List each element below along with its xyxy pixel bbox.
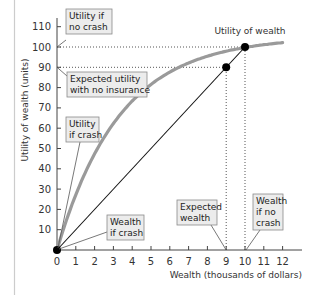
y-tick-label: 10 [38,224,51,235]
utility-if-crash-box: Utilityif crash [66,117,102,142]
x-tick-label: 3 [110,256,116,267]
annotation-text: crash [256,218,281,228]
y-axis-title: Utility of wealth (units) [20,58,30,161]
x-tick-label: 0 [54,256,60,267]
y-tick-label: 60 [38,123,51,134]
x-tick-label: 12 [276,256,289,267]
y-tick-label: 40 [38,163,51,174]
x-tick-label: 8 [204,256,210,267]
y-tick-label: 70 [38,102,51,113]
annotation-text: with no insurance [70,85,150,95]
y-tick-label: 20 [38,204,51,215]
utility-of-wealth-chart: 0123456789101112102030405060708090100110… [0,0,315,295]
annotation-text: if crash [110,228,143,238]
x-tick-label: 11 [257,256,270,267]
annotation-text: Wealth [110,217,141,227]
annotation-text: Utility [69,119,96,129]
annotation-text: no crash [69,22,108,32]
x-tick-label: 9 [223,256,229,267]
leader-line [246,230,260,250]
annotation-text: Wealth [256,196,287,206]
curve-label: Utility of wealth [214,26,285,36]
y-tick-label: 80 [38,82,51,93]
leader-line [57,67,67,76]
annotation-text: Utility if [69,11,105,21]
wealth-if-crash-box: Wealthif crash [107,215,144,240]
utility-if-no-crash-box: Utility ifno crash [66,9,112,34]
leader-line [57,40,66,47]
x-tick-label: 4 [129,256,135,267]
annotation-text: Expected utility [70,74,141,84]
wealth-if-no-crash-box: Wealthif nocrash [253,194,287,230]
y-tick-label: 50 [38,143,51,154]
data-point [241,43,249,51]
x-tick-label: 10 [239,256,252,267]
x-tick-label: 6 [167,256,173,267]
y-tick-label: 110 [32,21,51,32]
annotation-text: Expected [180,202,222,212]
data-point [53,246,61,254]
x-axis-title: Wealth (thousands of dollars) [170,270,302,280]
y-tick-label: 100 [32,42,51,53]
expected-utility-box: Expected utilitywith no insurance [67,72,150,97]
annotation-text: if no [256,207,276,217]
data-point [222,63,230,71]
y-tick-label: 30 [38,184,51,195]
annotation-text: if crash [69,130,102,140]
x-tick-label: 1 [73,256,79,267]
y-tick-label: 90 [38,62,51,73]
leader-line [211,225,226,250]
x-tick-label: 7 [185,256,191,267]
annotation-text: wealth [180,213,210,223]
x-tick-label: 2 [91,256,97,267]
expected-wealth-box: Expectedwealth [177,200,222,225]
x-tick-label: 5 [148,256,154,267]
